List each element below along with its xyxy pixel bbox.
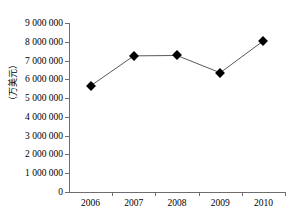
x-axis-tick xyxy=(285,192,286,196)
x-axis-tick xyxy=(242,192,243,196)
x-axis-tick xyxy=(199,192,200,196)
y-axis-tick-label: 1 000 000 xyxy=(25,168,63,178)
x-axis-tick-label: 2006 xyxy=(81,198,100,208)
x-axis-line xyxy=(69,192,285,193)
x-axis-tick xyxy=(112,192,113,196)
y-axis-tick-label: 9 000 000 xyxy=(25,18,63,28)
y-axis-tick-label: 4 000 000 xyxy=(25,112,63,122)
x-axis-tick xyxy=(155,192,156,196)
line-chart: （万美元） 01 000 0002 000 0003 000 0004 000 … xyxy=(0,0,294,224)
y-axis-tick-label: 6 000 000 xyxy=(25,74,63,84)
y-axis-tick-label: 2 000 000 xyxy=(25,149,63,159)
x-axis-tick-label: 2008 xyxy=(168,198,187,208)
y-axis-tick-label: 3 000 000 xyxy=(25,131,63,141)
x-axis-tick-label: 2009 xyxy=(211,198,230,208)
series-line xyxy=(69,23,285,192)
y-axis-tick xyxy=(65,192,69,193)
y-axis-tick-label: 8 000 000 xyxy=(25,37,63,47)
y-axis-tick-label: 5 000 000 xyxy=(25,93,63,103)
x-axis-tick-label: 2010 xyxy=(254,198,273,208)
plot-area: 01 000 0002 000 0003 000 0004 000 0005 0… xyxy=(69,23,285,192)
x-axis-tick-label: 2007 xyxy=(124,198,143,208)
y-axis-tick-label: 7 000 000 xyxy=(25,56,63,66)
y-axis-tick-label: 0 xyxy=(58,187,63,197)
y-axis-title: （万美元） xyxy=(6,45,19,121)
